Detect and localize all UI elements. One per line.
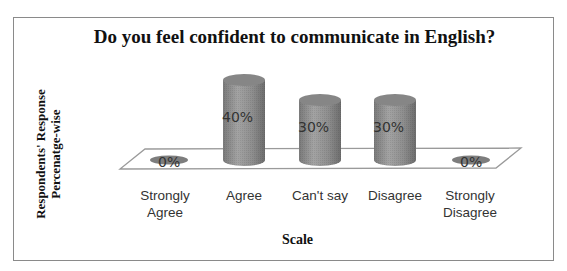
- bar-can-t-say: 30%: [298, 94, 341, 166]
- bar-disagree: 30%: [373, 94, 416, 166]
- bar-strongly-agree: 0%: [150, 154, 188, 170]
- data-label: 40%: [222, 109, 253, 125]
- data-label: 0%: [460, 154, 482, 170]
- plot-area: 0%40%30%30%0%: [0, 0, 567, 271]
- data-label: 30%: [373, 119, 404, 135]
- data-label: 30%: [298, 119, 329, 135]
- category-label: StronglyDisagree: [425, 187, 515, 221]
- x-axis-label: Scale: [0, 232, 567, 248]
- bar-agree: 40%: [222, 74, 265, 166]
- category-label: StronglyAgree: [120, 187, 210, 221]
- data-label: 0%: [158, 154, 180, 170]
